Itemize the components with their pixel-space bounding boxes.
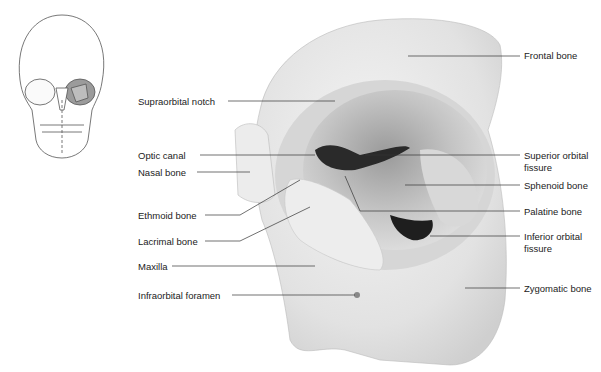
label-supraorbital-notch: Supraorbital notch <box>138 96 215 107</box>
label-zygomatic-bone: Zygomatic bone <box>524 283 592 294</box>
label-lacrimal-bone: Lacrimal bone <box>138 236 198 247</box>
label-maxilla: Maxilla <box>138 261 168 272</box>
label-ethmoid-bone: Ethmoid bone <box>138 210 197 221</box>
label-superior-orbital-fissure-2: fissure <box>524 162 552 173</box>
label-frontal-bone: Frontal bone <box>524 50 577 61</box>
label-inferior-orbital-fissure-1: Inferior orbital <box>524 231 582 242</box>
label-nasal-bone: Nasal bone <box>138 167 186 178</box>
skull-inset <box>19 15 104 158</box>
label-palatine-bone: Palatine bone <box>524 206 582 217</box>
label-inferior-orbital-fissure-2: fissure <box>524 243 552 254</box>
label-infraorbital-foramen: Infraorbital foramen <box>138 290 220 301</box>
label-sphenoid-bone: Sphenoid bone <box>524 180 588 191</box>
orbit-illustration <box>0 0 601 372</box>
label-superior-orbital-fissure-1: Superior orbital <box>524 150 588 161</box>
label-optic-canal: Optic canal <box>138 150 186 161</box>
